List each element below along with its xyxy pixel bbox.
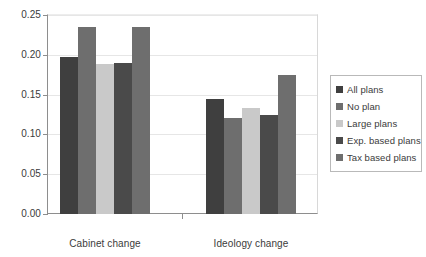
legend-item: Tax based plans	[336, 149, 417, 166]
legend: All plansNo planLarge plansExp. based pl…	[330, 75, 422, 172]
legend-swatch-icon	[336, 86, 343, 93]
legend-label: Exp. based plans	[347, 136, 421, 146]
legend-item: Exp. based plans	[336, 132, 417, 149]
x-axis-center-tick	[182, 214, 183, 219]
y-axis-tick	[43, 214, 48, 215]
bar	[260, 115, 278, 215]
y-axis-tick-label: 0.15	[21, 88, 41, 99]
bar	[114, 63, 132, 214]
bar	[224, 118, 242, 214]
y-axis-tick-label: 0.00	[21, 208, 41, 219]
bar	[60, 57, 78, 214]
y-axis-tick-label: 0.20	[21, 48, 41, 59]
bar	[78, 27, 96, 214]
y-axis-tick-labels: 0.000.050.100.150.200.25	[0, 14, 41, 214]
legend-swatch-icon	[336, 137, 343, 144]
bar-chart: 0.000.050.100.150.200.25 All plansNo pla…	[0, 0, 426, 257]
y-axis-tick-label: 0.25	[21, 9, 41, 20]
y-axis-tick-label: 0.10	[21, 128, 41, 139]
bar-group	[60, 15, 150, 214]
bar	[242, 108, 260, 214]
bar	[278, 75, 296, 214]
legend-swatch-icon	[336, 120, 343, 127]
legend-label: Large plans	[347, 119, 397, 129]
legend-swatch-icon	[336, 103, 343, 110]
legend-label: Tax based plans	[347, 153, 416, 163]
legend-label: All plans	[347, 85, 383, 95]
legend-item: No plan	[336, 98, 417, 115]
x-axis-category-label: Cabinet change	[69, 238, 140, 249]
legend-label: No plan	[347, 102, 380, 112]
bar	[132, 27, 150, 214]
y-axis-tick-label: 0.05	[21, 168, 41, 179]
x-axis-category-label: Ideology change	[214, 238, 289, 249]
legend-item: Large plans	[336, 115, 417, 132]
bar	[206, 99, 224, 214]
bars-layer	[48, 15, 317, 214]
legend-swatch-icon	[336, 154, 343, 161]
legend-item: All plans	[336, 81, 417, 98]
bar	[96, 64, 114, 214]
bar-group	[206, 15, 296, 214]
